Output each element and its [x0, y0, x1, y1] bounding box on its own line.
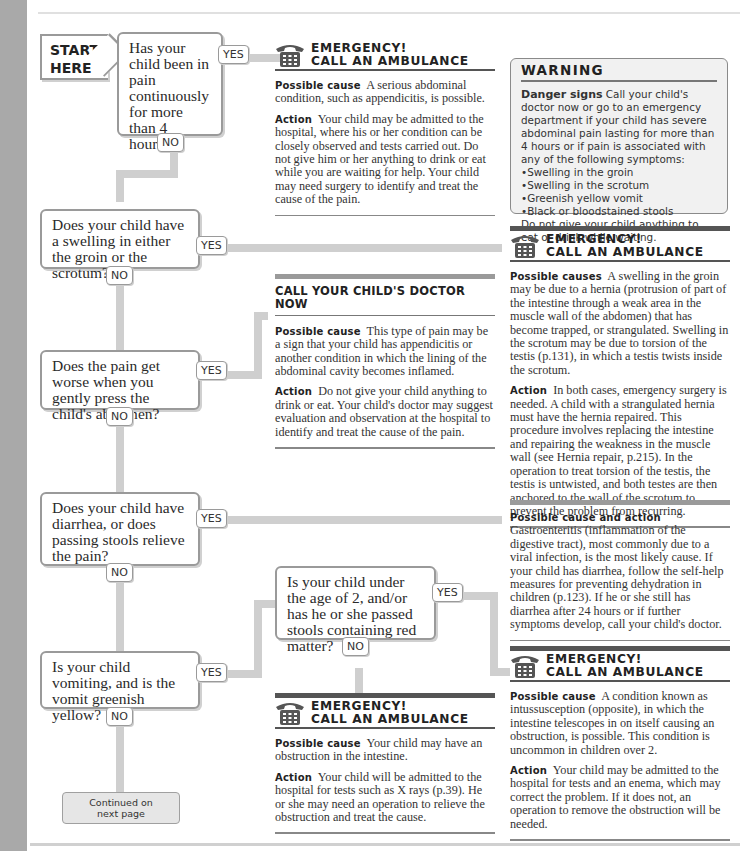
yes-tag[interactable]: YES [218, 45, 249, 64]
emergency-subtitle: CALL AN AMBULANCE [311, 713, 469, 726]
cause-label: Possible cause [275, 738, 361, 749]
question-box-swelling: Does your child have a swelling in eithe… [40, 209, 200, 269]
question-text: Does your child have diarrhea, or does p… [52, 499, 185, 564]
connector-q5-no [355, 668, 363, 696]
divider [275, 832, 495, 834]
symptom-item: Greenish yellow vomit [521, 192, 717, 205]
emergency-panel-obstruction: EMERGENCY! CALL AN AMBULANCE Possible ca… [275, 693, 495, 834]
yes-tag[interactable]: YES [432, 583, 463, 602]
connector-q4-yes [226, 516, 502, 524]
emergency-title: EMERGENCY! [311, 700, 469, 713]
start-here-marker: START HERE [40, 34, 108, 80]
connector-q1-no-b [118, 170, 178, 178]
action-text: In both cases, emergency surgery is need… [510, 383, 727, 518]
continued-next-page-button[interactable]: Continued on next page [62, 792, 180, 824]
no-tag[interactable]: NO [342, 637, 369, 656]
header-bar [510, 500, 730, 505]
danger-signs-label: Danger signs [521, 88, 603, 101]
cause-label: Possible causes [510, 271, 602, 282]
emergency-panel-intussusception: EMERGENCY! CALL AN AMBULANCE Possible ca… [510, 646, 730, 841]
page-edge-tab [0, 0, 27, 851]
connector-q6-yes-b [254, 602, 262, 678]
telephone-icon [275, 701, 305, 725]
action-label: Action [275, 114, 312, 125]
action-text: Your child may be admitted to the hospit… [275, 112, 486, 206]
yes-tag[interactable]: YES [196, 509, 227, 528]
telephone-icon [510, 654, 540, 678]
cause-action-label: Possible cause and action [510, 512, 661, 523]
emergency-title: EMERGENCY! [546, 653, 704, 666]
divider [510, 640, 730, 642]
connector-q3-yes-b [254, 314, 262, 378]
action-label: Action [275, 386, 312, 397]
no-tag[interactable]: NO [106, 563, 133, 582]
divider [275, 447, 495, 449]
symptom-item: Swelling in the groin [521, 166, 717, 179]
yes-tag[interactable]: YES [196, 361, 227, 380]
action-label: Action [510, 765, 547, 776]
question-box-pain-duration: Has your child been in pain continuously… [117, 32, 223, 136]
header-bar [275, 274, 495, 279]
call-doctor-panel: CALL YOUR CHILD'S DOCTOR NOW Possible ca… [275, 274, 495, 449]
header-bar [510, 226, 730, 231]
continued-line1: Continued on [63, 797, 179, 808]
emergency-header: EMERGENCY! CALL AN AMBULANCE [275, 700, 495, 729]
start-label-line2: HERE [50, 59, 100, 77]
gastroenteritis-panel: Possible cause and action Gastroenteriti… [510, 500, 730, 641]
continued-line2: next page [63, 808, 179, 819]
call-doctor-heading: CALL YOUR CHILD'S DOCTOR NOW [275, 281, 495, 316]
connector-q5-yes-c [490, 668, 510, 676]
question-box-under-2: Is your child under the age of 2, and/or… [275, 566, 436, 640]
cause-label: Possible cause [275, 326, 361, 337]
emergency-title: EMERGENCY! [546, 233, 704, 246]
divider [275, 215, 495, 217]
no-tag[interactable]: NO [106, 266, 133, 285]
telephone-icon [275, 43, 305, 67]
cause-action-text: Gastroenteritis (inflammation of the dig… [510, 523, 724, 631]
action-label: Action [510, 385, 547, 396]
question-box-diarrhea: Does your child have diarrhea, or does p… [40, 492, 200, 566]
header-bar [510, 646, 730, 651]
emergency-subtitle: CALL AN AMBULANCE [546, 246, 704, 259]
emergency-header: EMERGENCY! CALL AN AMBULANCE [510, 233, 730, 262]
symptom-item: Black or bloodstained stools [521, 205, 717, 218]
start-label-line1: START [50, 41, 100, 59]
symptom-item: Swelling in the scrotum [521, 179, 717, 192]
telephone-icon [510, 234, 540, 258]
no-tag[interactable]: NO [157, 133, 184, 152]
cause-text: A swelling in the groin may be due to a … [510, 269, 728, 377]
top-rule [38, 12, 740, 14]
emergency-panel-pain-duration: EMERGENCY! CALL AN AMBULANCE Possible ca… [275, 42, 495, 216]
yes-tag[interactable]: YES [196, 663, 227, 682]
header-bar [275, 693, 495, 698]
emergency-panel-swelling: EMERGENCY! CALL AN AMBULANCE Possible ca… [510, 226, 730, 528]
emergency-subtitle: CALL AN AMBULANCE [546, 666, 704, 679]
yes-tag[interactable]: YES [196, 236, 227, 255]
no-tag[interactable]: NO [106, 707, 133, 726]
connector-q4-no [116, 572, 124, 656]
warning-box: WARNING Danger signs Call your child's d… [510, 58, 728, 214]
cause-label: Possible cause [510, 691, 596, 702]
action-label: Action [275, 772, 312, 783]
connector-q3-yes-c [254, 312, 268, 320]
connector-q2-yes [226, 244, 502, 252]
bottom-rule [30, 843, 740, 846]
no-tag[interactable]: NO [106, 407, 133, 426]
emergency-header: EMERGENCY! CALL AN AMBULANCE [510, 653, 730, 682]
emergency-header: EMERGENCY! CALL AN AMBULANCE [275, 42, 495, 71]
emergency-title: EMERGENCY! [311, 42, 469, 55]
question-box-pain-press: Does the pain get worse when you gently … [40, 350, 200, 410]
warning-title: WARNING [521, 64, 717, 82]
symptom-list: Swelling in the groin Swelling in the sc… [521, 166, 717, 218]
emergency-subtitle: CALL AN AMBULANCE [311, 55, 469, 68]
divider [510, 839, 730, 841]
connector-q5-yes-b [490, 592, 498, 672]
connector-q1-no-c [116, 170, 124, 202]
cause-label: Possible cause [275, 80, 361, 91]
question-box-vomiting: Is your child vomiting, and is the vomit… [40, 651, 200, 709]
